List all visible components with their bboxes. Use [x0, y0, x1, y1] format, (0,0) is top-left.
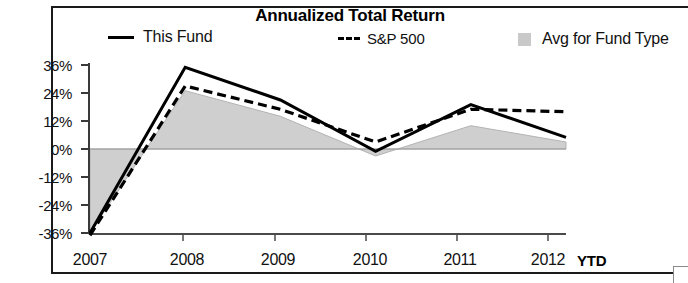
- series-line-this-fund: [90, 67, 566, 233]
- chart-screenshot: Annualized Total Return This Fund S&P 50…: [0, 0, 688, 283]
- y-axis-ticks: [81, 65, 89, 233]
- plot-area: [0, 0, 688, 283]
- x-axis-ticks: [183, 234, 548, 241]
- page-corner-fold: [673, 266, 688, 283]
- plot-svg: [0, 0, 688, 283]
